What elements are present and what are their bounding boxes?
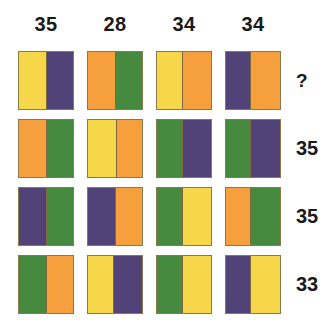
color-cell[interactable] [18,255,74,314]
color-band-right [115,52,143,109]
color-cell[interactable] [156,51,212,110]
swatch-grid: ? 35 [0,50,290,322]
column-header-4: 34 [225,14,281,34]
color-cell[interactable] [87,51,143,110]
color-band-left [19,188,46,245]
color-band-right [250,256,280,313]
color-band-right [115,188,143,245]
color-band-right [46,188,74,245]
color-band-right [250,120,280,177]
color-band-left [157,120,182,177]
row-label-sum: 35 [296,206,324,226]
row-label-sum: 33 [296,274,324,294]
color-band-left [19,120,46,177]
color-band-left [157,256,182,313]
color-cell[interactable] [18,119,74,178]
color-cell[interactable] [156,119,212,178]
color-band-right [116,120,142,177]
color-cell[interactable] [156,255,212,314]
color-cell[interactable] [87,187,143,246]
color-cell[interactable] [225,255,281,314]
color-band-left [226,52,250,109]
color-band-left [226,120,250,177]
color-band-right [250,188,280,245]
color-band-right [250,52,280,109]
puzzle-canvas: 35 28 34 34 ? [0,0,324,328]
row-label-sum: 35 [296,138,324,158]
color-cell[interactable] [87,119,143,178]
color-band-right [46,256,74,313]
color-band-right [113,256,142,313]
color-cell[interactable] [225,187,281,246]
grid-row: 33 [0,254,290,314]
color-cell[interactable] [225,51,281,110]
color-band-left [19,256,46,313]
column-header-1: 35 [18,14,74,34]
grid-row: 35 [0,186,290,246]
color-band-left [19,52,46,109]
color-cell[interactable] [18,51,74,110]
color-band-left [88,52,115,109]
color-band-left [88,256,113,313]
color-band-left [226,256,250,313]
color-band-left [88,120,116,177]
color-band-right [46,120,74,177]
grid-row: 35 [0,118,290,178]
color-band-left [88,188,115,245]
color-band-right [182,188,211,245]
color-band-left [226,188,250,245]
color-cell[interactable] [87,255,143,314]
color-cell[interactable] [225,119,281,178]
color-band-right [46,52,74,109]
color-cell[interactable] [18,187,74,246]
column-header-2: 28 [87,14,143,34]
color-band-left [157,52,182,109]
color-band-right [182,256,211,313]
column-header-row: 35 28 34 34 [0,8,290,40]
row-label-answer: ? [296,71,324,90]
grid-row: ? [0,50,290,110]
color-band-left [157,188,182,245]
color-band-right [182,120,211,177]
color-cell[interactable] [156,187,212,246]
column-header-3: 34 [156,14,212,34]
color-band-right [182,52,211,109]
